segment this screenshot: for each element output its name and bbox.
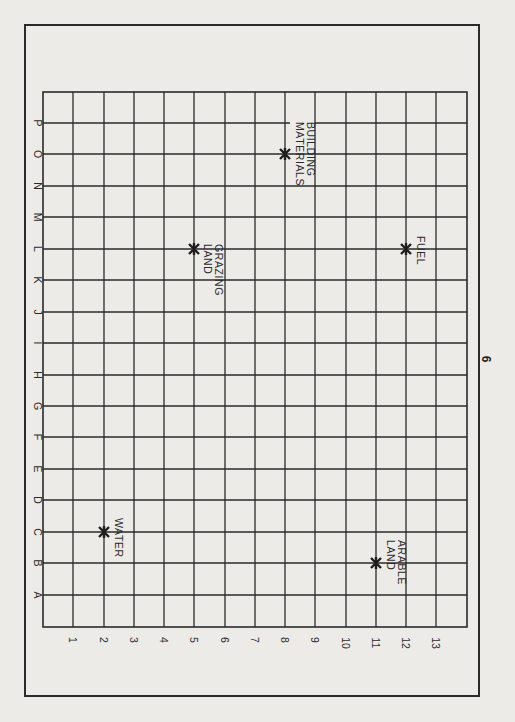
arable-land-marker-icon xyxy=(370,557,382,569)
row-label-l: L xyxy=(32,242,44,256)
col-label-7: 7 xyxy=(249,633,261,647)
col-label-1: 1 xyxy=(67,633,79,647)
row-label-j: J xyxy=(32,305,44,319)
water-marker-icon xyxy=(98,526,110,538)
row-label-h: H xyxy=(32,368,44,382)
row-label-f: F xyxy=(32,430,44,444)
col-label-6: 6 xyxy=(219,633,231,647)
building-materials-marker-icon xyxy=(279,148,291,160)
fuel-marker-icon xyxy=(400,243,412,255)
row-label-o: O xyxy=(32,147,44,161)
arable-land-label: ARABLE LAND xyxy=(385,540,407,585)
col-label-4: 4 xyxy=(158,633,170,647)
grazing-land-label: GRAZING LAND xyxy=(202,244,224,296)
col-label-11: 11 xyxy=(370,636,382,650)
col-label-10: 10 xyxy=(340,636,352,650)
page-number: 6 xyxy=(479,356,493,363)
col-label-2: 2 xyxy=(98,633,110,647)
col-label-12: 12 xyxy=(400,636,412,650)
row-label-p: P xyxy=(32,116,44,130)
row-label-a: A xyxy=(32,588,44,602)
grazing-land-marker-icon xyxy=(188,243,200,255)
col-label-13: 13 xyxy=(430,636,442,650)
fuel-label: FUEL xyxy=(415,236,426,265)
row-label-d: D xyxy=(32,493,44,507)
col-label-5: 5 xyxy=(188,633,200,647)
row-label-c: C xyxy=(32,525,44,539)
row-label-g: G xyxy=(32,399,44,413)
row-label-n: N xyxy=(32,179,44,193)
row-label-e: E xyxy=(32,462,44,476)
col-label-3: 3 xyxy=(128,633,140,647)
row-label-m: M xyxy=(32,210,44,224)
row-label-b: B xyxy=(32,556,44,570)
row-label-i: I xyxy=(32,336,44,350)
col-label-8: 8 xyxy=(279,633,291,647)
water-label: WATER xyxy=(113,518,124,558)
col-label-9: 9 xyxy=(309,633,321,647)
building-materials-label: BUILDING MATERIALS xyxy=(294,122,316,186)
map-grid xyxy=(0,0,515,722)
row-label-k: K xyxy=(32,273,44,287)
